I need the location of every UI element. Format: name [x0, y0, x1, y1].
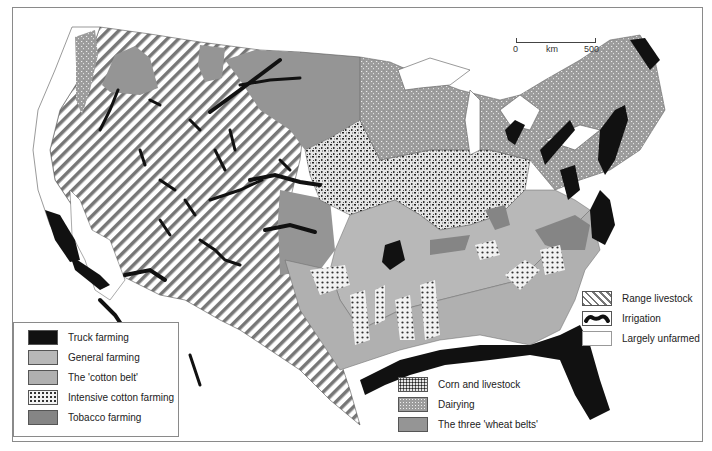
scale-bar: 0 km 500	[512, 34, 592, 56]
cotton-belt-swatch	[28, 370, 58, 385]
unfarmed-swatch	[582, 331, 612, 346]
legend-label: Dairying	[438, 399, 475, 410]
legend-label: Largely unfarmed	[622, 333, 700, 344]
legend-item-cotton-belt: The 'cotton belt'	[28, 367, 178, 387]
legend-item-corn-livestock: Corn and livestock	[398, 374, 568, 394]
legend-label: Corn and livestock	[438, 379, 520, 390]
scale-bar-line	[516, 38, 596, 43]
scale-max-label: 500	[584, 44, 599, 54]
scale-unit-label: km	[546, 44, 558, 54]
legend-label: Truck farming	[68, 332, 129, 343]
tobacco-farming-swatch	[28, 410, 58, 425]
legend-label: General farming	[68, 352, 140, 363]
irrigation-icon	[583, 312, 611, 325]
legend-item-truck-farming: Truck farming	[28, 327, 178, 347]
legend-label: The 'cotton belt'	[68, 372, 138, 383]
legend-label: The three 'wheat belts'	[438, 419, 538, 430]
legend-item-general-farming: General farming	[28, 347, 178, 367]
legend-label: Intensive cotton farming	[68, 392, 174, 403]
irrigation-swatch	[582, 311, 612, 326]
legend-label: Irrigation	[622, 313, 661, 324]
range-livestock-swatch	[582, 291, 612, 306]
legend-item-intensive-cotton: Intensive cotton farming	[28, 387, 178, 407]
wheat-belts-swatch	[398, 417, 428, 432]
legend-label: Range livestock	[622, 293, 693, 304]
legend-label: Tobacco farming	[68, 412, 141, 423]
general-farming-swatch	[28, 350, 58, 365]
truck-farming-swatch	[28, 330, 58, 345]
legend-item-range-livestock: Range livestock	[582, 288, 702, 308]
intensive-cotton-swatch	[28, 390, 58, 405]
corn-livestock-swatch	[398, 377, 428, 392]
legend-item-tobacco-farming: Tobacco farming	[28, 407, 178, 427]
scale-min-label: 0	[513, 44, 518, 54]
dairying-swatch	[398, 397, 428, 412]
legend-item-wheat-belts: The three 'wheat belts'	[398, 414, 568, 434]
legend-item-dairying: Dairying	[398, 394, 568, 414]
legend-item-unfarmed: Largely unfarmed	[582, 328, 702, 348]
legend-item-irrigation: Irrigation	[582, 308, 702, 328]
legend-left: Truck farming General farming The 'cotto…	[13, 322, 179, 437]
